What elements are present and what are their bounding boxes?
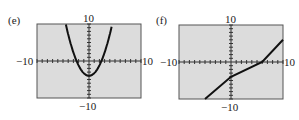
graph-f-xmin-label: −10 [160,57,177,68]
graph-e-ymax-label: 10 [83,13,94,24]
graph-f-ymin-label: −10 [221,102,238,113]
graph-f-ymax-label: 10 [225,14,236,25]
graph-e-xmax-label: 10 [142,56,153,67]
graph-f-xmax-label: 10 [284,57,295,68]
panel-label-e: (e) [8,15,20,26]
graph-e [37,24,141,98]
graph-f [179,25,283,99]
graph-e-xmin-label: −10 [16,56,33,67]
panel-label-f: (f) [156,15,167,26]
graph-e-ymin-label: −10 [79,101,96,112]
